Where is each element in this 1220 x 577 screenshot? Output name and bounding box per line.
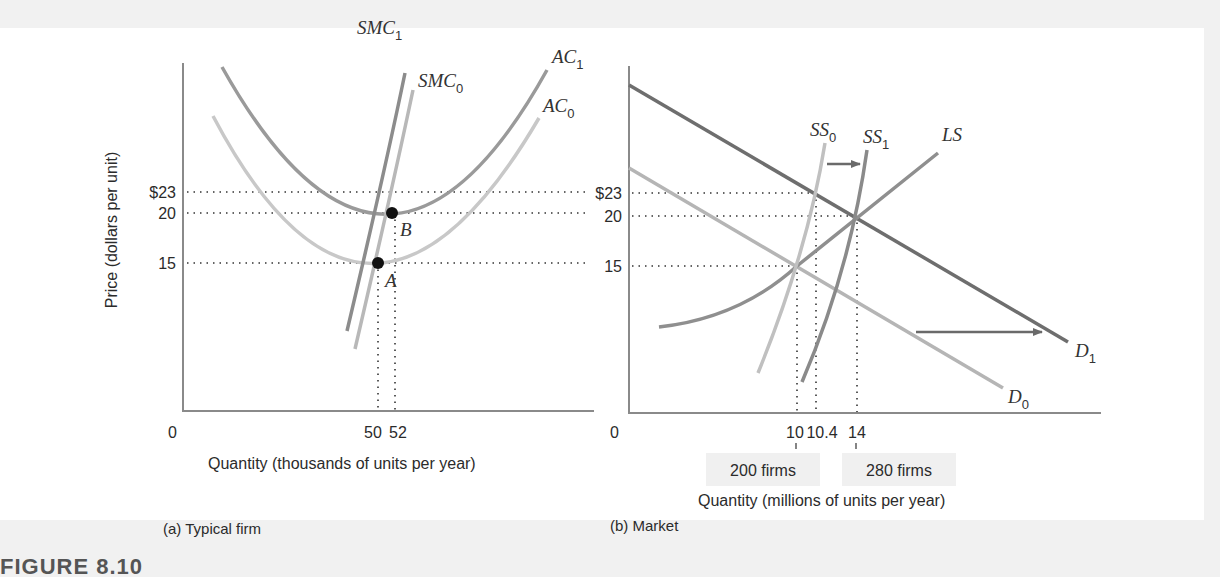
ytick-23-b: $23 <box>595 185 622 202</box>
ss1-label: SS1 <box>863 126 889 152</box>
ac1-label: AC1 <box>550 46 584 72</box>
panel-a-title: (a) Typical firm <box>163 520 261 537</box>
ytick-20-b: 20 <box>604 208 622 225</box>
xlabel-b: Quantity (millions of units per year) <box>698 492 945 509</box>
ac0-curve <box>213 116 539 264</box>
ac1-curve <box>222 67 547 214</box>
reference-lines <box>187 192 590 410</box>
point-b <box>386 207 398 219</box>
ytick-23-a: $23 <box>149 184 176 201</box>
panel-market: SS0 SS1 LS D1 D0 $23 20 15 0 10 10.4 14 … <box>595 66 1101 534</box>
xtick-14: 14 <box>848 424 866 441</box>
origin-b: 0 <box>610 424 619 441</box>
ls-label: LS <box>941 124 963 145</box>
firms-200-label: 200 firms <box>730 462 796 479</box>
ytick-15-a: 15 <box>158 255 176 272</box>
ss0-curve <box>758 143 825 373</box>
figure-svg: B A SMC1 SMC0 AC1 AC0 $23 20 15 0 50 52 … <box>0 0 1220 577</box>
axes-a <box>182 63 594 412</box>
smc1-curve <box>347 73 405 331</box>
figure-caption: FIGURE 8.10 <box>0 556 143 577</box>
point-a <box>372 257 384 269</box>
ytick-15-b: 15 <box>604 258 622 275</box>
firms-280-label: 280 firms <box>866 462 932 479</box>
smc0-label: SMC0 <box>418 70 463 96</box>
point-b-label: B <box>400 219 412 240</box>
ytick-20-a: 20 <box>158 205 176 222</box>
xlabel-a: Quantity (thousands of units per year) <box>208 455 476 472</box>
xtick-50: 50 <box>364 424 382 441</box>
ss0-label: SS0 <box>810 119 836 145</box>
xtick-10: 10 <box>786 424 804 441</box>
d0-label: D0 <box>1007 386 1029 412</box>
axes-b <box>628 66 1101 414</box>
origin-a: 0 <box>168 424 177 441</box>
d1-label: D1 <box>1074 340 1096 366</box>
xtick-10-4: 10.4 <box>806 424 837 441</box>
smc1-label: SMC1 <box>357 17 402 43</box>
ylabel-a: Price (dollars per unit) <box>103 152 120 309</box>
xtick-52: 52 <box>389 424 407 441</box>
ac0-label: AC0 <box>541 95 575 121</box>
d1-curve <box>629 85 1068 342</box>
panel-typical-firm: B A SMC1 SMC0 AC1 AC0 $23 20 15 0 50 52 … <box>103 17 594 537</box>
panel-b-title: (b) Market <box>610 517 679 534</box>
point-a-label: A <box>383 270 397 291</box>
